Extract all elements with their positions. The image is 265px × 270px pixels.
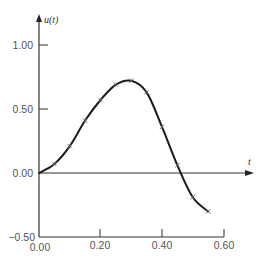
data-curve: [39, 80, 208, 211]
y-tick-label: 0.00: [13, 167, 34, 179]
x-axis-arrow-icon: [245, 170, 254, 176]
x-tick-label: 0.00: [30, 241, 51, 253]
y-axis-label: u(t): [44, 14, 59, 26]
x-axis-label: t: [248, 156, 251, 167]
y-tick-label: 1.00: [13, 39, 34, 51]
x-tick-label: 0.40: [152, 239, 173, 251]
chart: 1.00 0.50 0.00 −0.50 0.00 0.20 0.40 0.60…: [0, 0, 265, 270]
data-markers: [52, 79, 210, 214]
x-tick-label: 0.20: [90, 239, 111, 251]
x-tick-label: 0.60: [214, 239, 235, 251]
y-axis-arrow-icon: [36, 14, 42, 22]
y-tick-label: 0.50: [13, 103, 34, 115]
